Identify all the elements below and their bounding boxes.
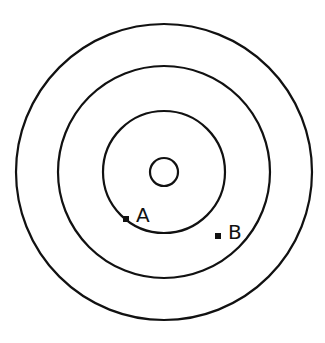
middle-ring bbox=[58, 66, 270, 278]
point-a-marker bbox=[123, 216, 129, 222]
point-b-label: B bbox=[228, 220, 242, 244]
point-a-label: A bbox=[136, 203, 150, 227]
point-b-marker bbox=[215, 233, 221, 239]
concentric-circles-diagram: A B bbox=[0, 0, 325, 343]
inner-ring bbox=[103, 111, 225, 233]
outer-ring bbox=[16, 24, 312, 320]
center-circle bbox=[150, 158, 178, 186]
